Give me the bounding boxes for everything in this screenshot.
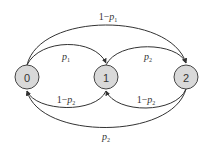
- edge-label-2-to-0: p2: [101, 131, 110, 143]
- edge-label-2-to-1: 1−p2: [137, 94, 156, 106]
- node-1-label: 1: [103, 72, 109, 84]
- markov-chain-diagram: 0 1 2 1−p1 p1 p2 1−p2 1−p2 p2: [0, 0, 213, 149]
- node-1: 1: [94, 65, 118, 89]
- edge-2-to-0: [27, 89, 186, 128]
- edge-label-0-to-1: p1: [61, 51, 70, 63]
- edge-0-to-2: [27, 25, 186, 65]
- node-2-label: 2: [183, 72, 189, 84]
- node-0-label: 0: [24, 72, 30, 84]
- node-2: 2: [174, 65, 198, 89]
- edge-label-1-to-0: 1−p2: [57, 94, 76, 106]
- edge-label-0-to-2: 1−p1: [99, 11, 118, 23]
- edge-label-1-to-2: p2: [143, 51, 152, 63]
- node-0: 0: [15, 65, 39, 89]
